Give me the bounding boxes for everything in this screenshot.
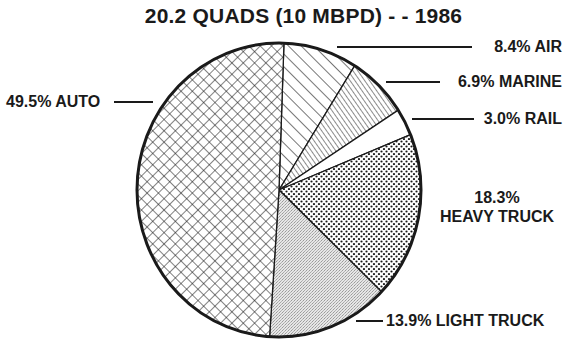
label-heavy-truck-name: HEAVY TRUCK (430, 208, 564, 226)
label-rail: 3.0% RAIL (420, 110, 562, 128)
label-heavy-truck-pct: 18.3% (430, 189, 564, 207)
label-light-truck: 13.9% LIGHT TRUCK (386, 312, 544, 330)
label-marine: 6.9% MARINE (420, 73, 562, 91)
label-auto: 49.5% AUTO (6, 93, 100, 111)
pie-slice-auto (137, 43, 284, 337)
label-air: 8.4% AIR (420, 38, 562, 56)
